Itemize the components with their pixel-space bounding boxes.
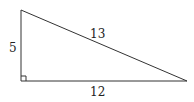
right-triangle <box>21 10 187 81</box>
horizontal-leg-label: 12 <box>90 85 105 99</box>
triangle-diagram: 5 13 12 <box>0 0 194 102</box>
hypotenuse-label: 13 <box>90 27 105 41</box>
vertical-leg-label: 5 <box>9 41 17 55</box>
right-angle-marker <box>21 76 26 81</box>
